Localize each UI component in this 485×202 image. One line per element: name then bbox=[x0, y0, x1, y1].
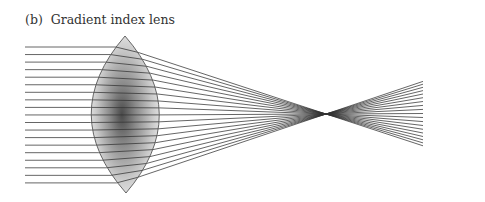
light-ray bbox=[25, 87, 423, 168]
light-ray bbox=[25, 62, 423, 140]
light-ray bbox=[25, 109, 423, 122]
light-rays bbox=[25, 47, 423, 183]
light-ray bbox=[25, 55, 423, 143]
gradient-index-lens-diagram bbox=[0, 0, 485, 202]
lens bbox=[91, 36, 159, 193]
light-ray bbox=[25, 114, 423, 115]
